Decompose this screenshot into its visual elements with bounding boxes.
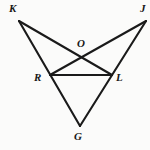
- figure-canvas: [0, 0, 150, 150]
- segment-j-g: [80, 21, 146, 126]
- vertex-label-r: R: [34, 72, 41, 83]
- vertex-label-j: J: [140, 3, 146, 14]
- geometry-figure: K J O R L G: [0, 0, 150, 150]
- vertex-label-o: O: [77, 38, 85, 49]
- vertex-label-k: K: [9, 3, 16, 14]
- vertex-label-g: G: [74, 131, 82, 142]
- segment-k-g: [19, 21, 80, 126]
- vertex-label-l: L: [116, 72, 123, 83]
